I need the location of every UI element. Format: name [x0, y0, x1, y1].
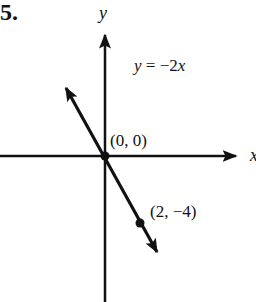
origin-label: (0, 0)	[110, 132, 147, 149]
point-2-neg4	[136, 219, 145, 228]
equation-label: y = −2x	[134, 57, 185, 74]
problem-number: 5.	[0, 0, 18, 24]
y-axis-label: y	[99, 4, 107, 22]
point-label: (2, −4)	[150, 203, 196, 220]
point-origin	[101, 152, 110, 161]
x-axis-label: x	[250, 146, 256, 164]
graph-line	[66, 88, 157, 252]
coordinate-plane	[0, 0, 256, 302]
